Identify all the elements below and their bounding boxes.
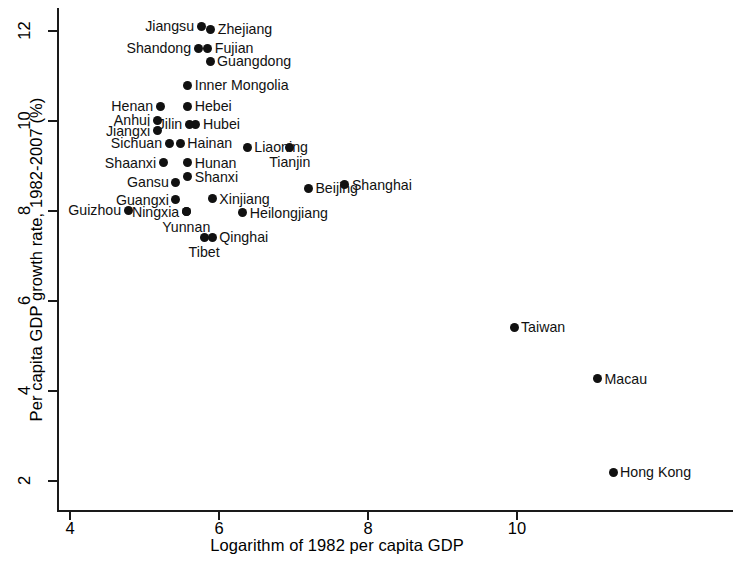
data-point-qinghai xyxy=(208,233,217,242)
y-tick-2 xyxy=(48,480,57,482)
data-point-tianjin xyxy=(285,143,294,152)
point-label-hebei: Hebei xyxy=(195,99,232,113)
point-label-liaoning: Liaoning xyxy=(254,140,308,154)
point-label-qinghai: Qinghai xyxy=(219,230,268,244)
point-label-hainan: Hainan xyxy=(187,136,232,150)
data-point-shaanxi xyxy=(159,158,168,167)
point-label-macau: Macau xyxy=(604,372,647,386)
data-point-fujian xyxy=(203,44,212,53)
point-label-sichuan: Sichuan xyxy=(111,136,162,150)
data-point-hebei xyxy=(183,102,192,111)
y-axis-title: Per capita GDP growth rate, 1982-2007 (%… xyxy=(27,10,46,510)
x-tick-label-4: 4 xyxy=(50,519,90,538)
point-label-tibet: Tibet xyxy=(189,245,220,259)
data-point-jilin xyxy=(185,120,194,129)
y-tick-label-4: 4 xyxy=(15,371,34,411)
point-label-shandong: Shandong xyxy=(126,41,191,55)
y-tick-6 xyxy=(48,300,57,302)
y-tick-8 xyxy=(48,210,57,212)
point-label-guizhou: Guizhou xyxy=(68,203,121,217)
point-label-inner-mongolia: Inner Mongolia xyxy=(195,78,289,92)
y-tick-label-6: 6 xyxy=(15,281,34,321)
data-point-inner-mongolia xyxy=(183,81,192,90)
point-label-taiwan: Taiwan xyxy=(521,320,565,334)
data-point-xinjiang xyxy=(208,194,217,203)
x-axis-line xyxy=(57,510,733,512)
point-label-tianjin: Tianjin xyxy=(269,155,310,169)
data-point-guangdong xyxy=(206,57,215,66)
data-point-hainan xyxy=(176,139,185,148)
data-point-heilongjiang xyxy=(238,208,247,217)
y-tick-label-8: 8 xyxy=(15,191,34,231)
point-label-shanghai: Shanghai xyxy=(352,178,412,192)
data-point-zhejiang xyxy=(206,25,215,34)
point-label-shaanxi: Shaanxi xyxy=(105,156,156,170)
point-label-zhejiang: Zhejiang xyxy=(218,22,272,36)
y-tick-label-2: 2 xyxy=(15,461,34,501)
point-label-hong-kong: Hong Kong xyxy=(620,465,691,479)
data-point-shandong xyxy=(194,44,203,53)
data-point-hunan xyxy=(183,158,192,167)
point-label-hubei: Hubei xyxy=(203,117,240,131)
data-point-taiwan xyxy=(510,323,519,332)
point-label-ningxia: Ningxia xyxy=(132,205,179,219)
y-tick-4 xyxy=(48,390,57,392)
x-tick-label-6: 6 xyxy=(199,519,239,538)
data-point-macau xyxy=(593,374,602,383)
y-tick-label-10: 10 xyxy=(15,101,34,141)
y-tick-12 xyxy=(48,30,57,32)
y-tick-10 xyxy=(48,120,57,122)
data-point-jiangsu xyxy=(197,22,206,31)
data-point-ningxia xyxy=(182,207,191,216)
point-label-guangdong: Guangdong xyxy=(217,54,291,68)
data-point-hong-kong xyxy=(609,468,618,477)
y-tick-label-12: 12 xyxy=(15,11,34,51)
point-label-jiangsu: Jiangsu xyxy=(145,19,194,33)
x-tick-label-8: 8 xyxy=(348,519,388,538)
data-point-liaoning xyxy=(243,143,252,152)
y-axis-line xyxy=(57,8,59,512)
data-point-gansu xyxy=(171,178,180,187)
data-point-shanxi xyxy=(183,172,192,181)
x-tick-label-10: 10 xyxy=(497,519,537,538)
scatter-plot-figure: Per capita GDP growth rate, 1982-2007 (%… xyxy=(0,0,738,568)
point-label-heilongjiang: Heilongjiang xyxy=(250,206,328,220)
point-label-yunnan: Yunnan xyxy=(162,220,210,234)
data-point-sichuan xyxy=(165,139,174,148)
x-axis-title: Logarithm of 1982 per capita GDP xyxy=(57,536,617,555)
data-point-henan xyxy=(156,102,165,111)
point-label-shanxi: Shanxi xyxy=(195,170,238,184)
data-point-beijing xyxy=(304,184,313,193)
point-label-gansu: Gansu xyxy=(127,175,169,189)
